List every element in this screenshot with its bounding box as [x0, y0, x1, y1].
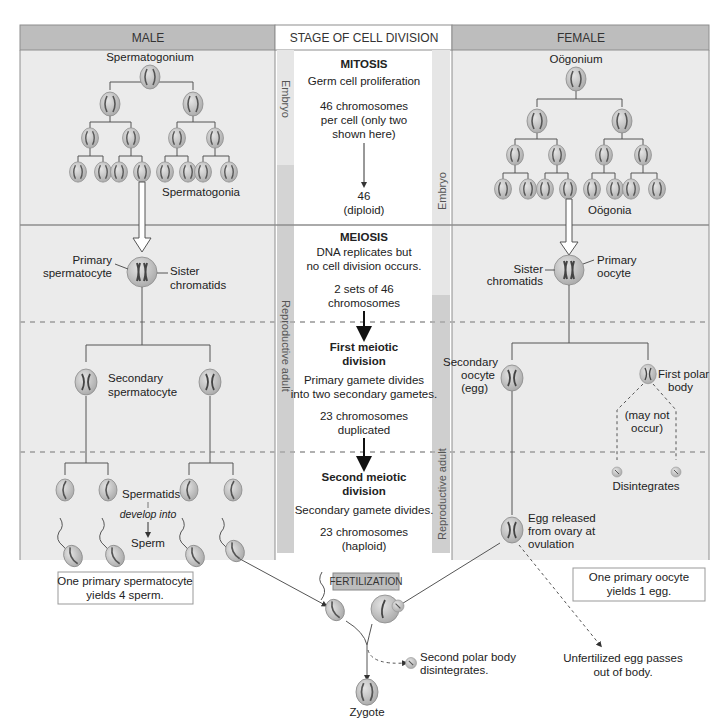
male-sister-label2: chromatids: [170, 279, 226, 291]
meiosis-sub-line1: DNA replicates but: [316, 246, 412, 258]
female-summary-line2: yields 1 egg.: [607, 585, 672, 597]
first-desc-line1: Primary gamete divides: [304, 374, 424, 386]
egg-released-line1: Egg released: [528, 512, 596, 524]
egg-released-line3: ovulation: [528, 538, 574, 550]
spermatid-cell-icon: [56, 479, 74, 501]
spermatogonium-label: Spermatogonium: [106, 51, 194, 63]
may-not-occur-line1: (may not: [625, 409, 671, 421]
primary-spermatocyte-label1: Primary: [72, 254, 112, 266]
second-division-line1: Second meiotic: [322, 471, 408, 483]
unfertilized-line1: Unfertilized egg passes: [563, 652, 683, 664]
fertilization-label: FERTILIZATION: [330, 576, 403, 587]
first-polar-label2: body: [668, 381, 693, 393]
second-polar-line2: disintegrates.: [420, 664, 488, 676]
female-header: FEMALE: [557, 31, 605, 45]
diploid-count: 46: [358, 190, 371, 202]
stage-header: STAGE OF CELL DIVISION: [290, 31, 439, 45]
diploid-label: (diploid): [344, 204, 385, 216]
secondary-spermatocyte-label2: spermatocyte: [108, 386, 177, 398]
first-polar-label1: First polar: [658, 368, 709, 380]
haploid-line2: (haploid): [342, 540, 387, 552]
first-division-line2: division: [342, 355, 385, 367]
gametogenesis-diagram: MALE STAGE OF CELL DIVISION FEMALE Embry…: [0, 0, 727, 718]
meiosis-sub-line2: no cell division occurs.: [306, 260, 421, 272]
released-egg-cell-icon: [501, 517, 523, 543]
develop-into-label: develop into: [120, 508, 177, 520]
oogonium-label: Oögonium: [549, 53, 602, 65]
oogonia-label: Oögonia: [588, 204, 632, 216]
second-division-line2: division: [342, 485, 385, 497]
adult-label-right: Reproductive adult: [436, 448, 448, 540]
male-header: MALE: [132, 31, 165, 45]
spermatogonia-label: Spermatogonia: [162, 186, 241, 198]
primary-oocyte-label2: oocyte: [597, 267, 631, 279]
sets-line1: 2 sets of 46: [334, 283, 393, 295]
unfertilized-line2: out of body.: [593, 666, 652, 678]
disintegrating-polar-icon: [612, 467, 622, 477]
zygote-label: Zygote: [349, 706, 384, 718]
primary-oocyte-label1: Primary: [597, 254, 637, 266]
male-summary-line2: yields 4 sperm.: [86, 589, 163, 601]
primary-spermatocyte-cell-icon: [127, 257, 157, 287]
secondary-oocyte-cell-icon: [501, 365, 523, 391]
duplicated-line1: 23 chromosomes: [320, 410, 408, 422]
secondary-oocyte-label3: (egg): [461, 382, 488, 394]
first-polar-body-icon: [640, 364, 657, 384]
egg-released-line2: from ovary at: [528, 525, 596, 537]
female-summary-line1: One primary oocyte: [589, 571, 689, 583]
adult-label-left: Reproductive adult: [280, 300, 292, 392]
sperm-label: Sperm: [131, 537, 165, 549]
female-sister-label1: Sister: [514, 263, 544, 275]
female-sister-label2: chromatids: [487, 275, 543, 287]
sets-line2: chromosomes: [328, 297, 400, 309]
zygote-cell-icon: [356, 679, 378, 705]
secondary-oocyte-label1: Secondary: [443, 356, 498, 368]
first-desc-line2: into two secondary gametes.: [291, 388, 437, 400]
embryo-label-right: Embryo: [436, 172, 448, 210]
mitosis-chrom-line3: shown here): [332, 128, 395, 140]
primary-spermatocyte-label2: spermatocyte: [43, 267, 112, 279]
mitosis-chrom-line1: 46 chromosomes: [320, 100, 408, 112]
meiosis-title: MEIOSIS: [340, 231, 388, 243]
second-polar-attached-icon: [392, 600, 404, 612]
mitosis-subtitle: Germ cell proliferation: [308, 75, 420, 87]
mitosis-title: MITOSIS: [340, 58, 387, 70]
may-not-occur-line2: occur): [631, 422, 663, 434]
second-polar-body-icon: [406, 658, 417, 669]
mitosis-chrom-line2: per cell (only two: [321, 114, 407, 126]
secondary-spermatocyte-cell-icon: [75, 369, 97, 395]
secondary-oocyte-label2: oocyte: [461, 369, 495, 381]
male-sister-label1: Sister: [170, 265, 200, 277]
male-summary-line1: One primary spermatocyte: [57, 575, 193, 587]
spermatogonium-cell-icon: [140, 65, 160, 89]
second-polar-line1: Second polar body: [420, 651, 516, 663]
embryo-label-left: Embryo: [280, 80, 292, 118]
haploid-line1: 23 chromosomes: [320, 526, 408, 538]
first-division-line1: First meiotic: [330, 341, 399, 353]
oogonium-cell-icon: [566, 67, 586, 91]
fertilizing-sperm-icon: [322, 596, 348, 624]
second-desc: Secondary gamete divides.: [295, 504, 434, 516]
secondary-spermatocyte-label1: Secondary: [108, 372, 163, 384]
disintegrates-label: Disintegrates: [612, 480, 679, 492]
duplicated-line2: duplicated: [338, 424, 390, 436]
spermatids-label: Spermatids: [122, 488, 180, 500]
primary-oocyte-cell-icon: [554, 255, 584, 285]
